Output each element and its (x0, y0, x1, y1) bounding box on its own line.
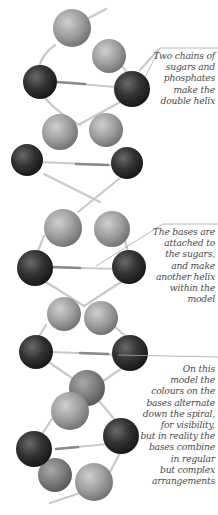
sugar-sphere (51, 392, 89, 430)
sugar-sphere (42, 114, 78, 150)
sugar-sphere (47, 297, 81, 331)
base-sphere-dark (103, 418, 139, 454)
caption-line: bases alternate (140, 397, 215, 408)
caption-line: model the (140, 374, 215, 385)
caption-bases: The bases are attached to the sugars, an… (153, 226, 215, 304)
sugar-sphere (89, 113, 123, 147)
caption-line: for visibility, (140, 419, 215, 430)
caption-line: but complex (140, 464, 215, 475)
caption-line: attached to (153, 237, 215, 248)
base-sphere-dark (114, 71, 150, 107)
base-sphere-dark (19, 335, 53, 369)
sugar-sphere (44, 209, 82, 247)
caption-line: Two chains of (154, 50, 215, 61)
caption-chains: Two chains of sugars and phosphates make… (154, 50, 215, 106)
caption-line: but in reality the (140, 430, 215, 441)
caption-line: sugars and (154, 61, 215, 72)
caption-line: make the (154, 84, 215, 95)
caption-line: and make (153, 260, 215, 271)
caption-line: bases combine (140, 441, 215, 452)
caption-line: arrangements (140, 475, 215, 486)
caption-line: model (153, 293, 215, 304)
sugar-sphere (53, 9, 91, 47)
caption-line: double helix (154, 95, 215, 106)
sugar-sphere (94, 211, 130, 247)
sugar-sphere (92, 39, 126, 73)
sugar-sphere (84, 301, 118, 335)
base-sphere-dark (23, 65, 57, 99)
caption-line: the sugars, (153, 248, 215, 259)
base-sphere-dark (17, 250, 53, 286)
caption-line: within the (153, 282, 215, 293)
base-sphere-dark (112, 250, 146, 284)
base-sphere-dark (11, 144, 43, 176)
caption-line: down the spiral, (140, 408, 215, 419)
caption-line: The bases are (153, 226, 215, 237)
base-sphere-dark (16, 431, 52, 467)
caption-colours: On this model the colours on the bases a… (140, 363, 215, 486)
caption-line: On this (140, 363, 215, 374)
caption-line: colours on the (140, 385, 215, 396)
caption-line: phosphates (154, 72, 215, 83)
caption-line: another helix (153, 271, 215, 282)
caption-line: in regular (140, 453, 215, 464)
base-sphere-dark (111, 147, 143, 179)
dna-helix-diagram: Two chains of sugars and phosphates make… (0, 0, 218, 515)
sugar-sphere (75, 463, 113, 501)
